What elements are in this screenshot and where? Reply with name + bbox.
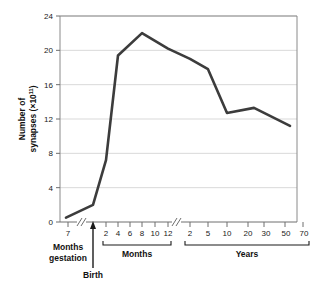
x-ticks-months: [106, 222, 168, 227]
x-tick-label-months-4: 4: [116, 229, 121, 238]
y-axis-title-line1: Number of: [17, 98, 27, 141]
x-tick-labels-years: 2 5 10 20 30 50 70: [188, 229, 309, 238]
x-tick-label-months-10: 10: [151, 229, 160, 238]
x-tick-label-years-2: 2: [188, 229, 193, 238]
x-group-bracket-months: [103, 241, 171, 245]
x-tick-label-months-6: 6: [128, 229, 133, 238]
y-axis-title-line2-prefix: synapses (×10: [28, 94, 38, 153]
synapse-density-chart: 24 20 16 12 8 4 0 Number of synapses (×1…: [0, 0, 316, 283]
x-group-label-gestation-line1: Months: [53, 242, 83, 252]
x-ticks-years: [190, 222, 303, 227]
x-group-label-years: Years: [236, 249, 259, 259]
x-group-label-gestation-line2: gestation: [49, 253, 87, 263]
chart-svg: 24 20 16 12 8 4 0 Number of synapses (×1…: [0, 0, 316, 283]
y-axis-ticks: [56, 16, 60, 222]
x-tick-labels-months: 2 4 6 8 10 12: [104, 229, 173, 238]
x-tick-label-gestation-7: 7: [66, 229, 71, 238]
y-tick-label-20: 20: [44, 46, 53, 55]
y-tick-label-24: 24: [44, 12, 53, 21]
x-tick-label-months-12: 12: [164, 229, 173, 238]
x-group-bracket-years: [185, 241, 309, 245]
x-tick-label-years-70: 70: [300, 229, 309, 238]
x-tick-label-years-50: 50: [282, 229, 291, 238]
x-tick-label-months-8: 8: [140, 229, 145, 238]
x-tick-label-years-5: 5: [206, 229, 211, 238]
x-tick-label-years-30: 30: [262, 229, 271, 238]
birth-marker: Birth: [83, 221, 103, 280]
y-axis-title-line2-suffix: ): [28, 85, 38, 88]
y-tick-label-12: 12: [44, 115, 53, 124]
birth-label: Birth: [83, 270, 103, 280]
y-tick-label-0: 0: [49, 218, 54, 227]
y-tick-label-4: 4: [49, 184, 54, 193]
x-tick-label-years-20: 20: [244, 229, 253, 238]
x-tick-label-months-2: 2: [104, 229, 109, 238]
y-tick-label-8: 8: [49, 149, 54, 158]
y-axis-title-line2: synapses (×1011): [28, 85, 38, 152]
x-tick-label-years-10: 10: [223, 229, 232, 238]
x-group-label-months: Months: [122, 249, 152, 259]
y-tick-label-16: 16: [44, 81, 53, 90]
y-axis-title: Number of synapses (×1011): [17, 85, 38, 152]
y-axis-tick-labels: 24 20 16 12 8 4 0: [44, 12, 53, 227]
